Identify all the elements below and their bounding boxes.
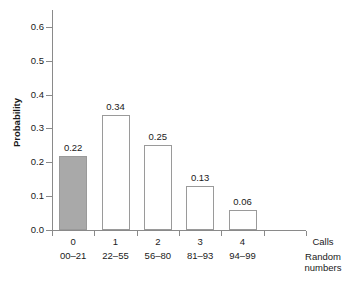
x-axis-category-label: 494–99 (217, 236, 269, 261)
x-axis-name-block: Calls Random numbers (300, 236, 346, 274)
x-axis-label-random: Random (300, 251, 346, 263)
bar (59, 156, 87, 230)
y-axis-tick-label: 0.5 (4, 56, 44, 66)
x-axis-label-numbers: numbers (300, 262, 346, 274)
bar (144, 145, 172, 230)
plot-area (52, 10, 306, 230)
y-axis-tick-label: 0.3 (4, 123, 44, 133)
x-axis-category-range: 94–99 (217, 250, 269, 261)
x-axis-label-calls: Calls (300, 236, 346, 248)
bar-value-label: 0.25 (138, 132, 178, 142)
y-axis-tick-label: 0.2 (4, 157, 44, 167)
bar-value-label: 0.13 (180, 173, 220, 183)
x-axis-category-value: 4 (217, 236, 269, 247)
y-axis-tick-label: 0.1 (4, 191, 44, 201)
y-axis-tick-label: 0.6 (4, 22, 44, 32)
y-axis-tick-label: 0.0 (4, 225, 44, 235)
bar-value-label: 0.34 (96, 102, 136, 112)
probability-bar-chart: Probability 0.00.10.20.30.40.50.6 0.220.… (0, 0, 346, 282)
bar (102, 115, 130, 230)
bar-value-label: 0.22 (53, 143, 93, 153)
bar-value-label: 0.06 (223, 197, 263, 207)
y-axis-tick-label: 0.4 (4, 90, 44, 100)
bar (186, 186, 214, 230)
bar (229, 210, 257, 230)
